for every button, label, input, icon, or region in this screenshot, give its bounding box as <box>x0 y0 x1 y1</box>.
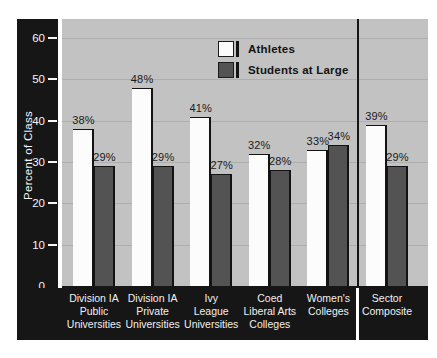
bar-athletes-2 <box>190 117 211 286</box>
bar-students-4 <box>328 145 349 286</box>
y-tick-mark-30 <box>48 161 57 163</box>
bar-students-3 <box>270 170 291 286</box>
value-label-athletes-3: 32% <box>237 139 281 151</box>
value-label-students-2: 27% <box>200 159 244 171</box>
value-label-students-3: 28% <box>258 155 302 167</box>
y-tick-value-40: 40 <box>32 115 45 127</box>
y-tick-value-50: 50 <box>32 73 45 85</box>
legend-item-athletes: Athletes <box>218 40 349 57</box>
students-at-large-swatch-shadow <box>236 62 239 78</box>
value-label-athletes-2: 41% <box>179 102 223 114</box>
y-tick-mark-10 <box>48 244 57 246</box>
bar-athletes-1 <box>132 88 153 286</box>
gridline-60 <box>62 38 428 39</box>
value-label-students-1: 29% <box>141 151 185 163</box>
bar-chart-figure: Percent of Class 0102030405060 38%29%48%… <box>0 0 437 358</box>
bar-students-5 <box>387 166 408 286</box>
legend-label-students-at-large: Students at Large <box>248 64 349 76</box>
bar-students-2 <box>211 174 232 286</box>
y-tick-value-60: 60 <box>32 32 45 44</box>
y-tick-value-30: 30 <box>32 156 45 168</box>
value-label-athletes-1: 48% <box>120 73 164 85</box>
y-tick-20: 20 <box>17 196 58 210</box>
legend-item-students-at-large: Students at Large <box>218 61 349 78</box>
value-label-students-0: 29% <box>83 151 127 163</box>
bar-students-0 <box>94 166 115 286</box>
y-tick-40: 40 <box>17 114 58 128</box>
y-tick-50: 50 <box>17 72 58 86</box>
y-tick-value-10: 10 <box>32 239 45 251</box>
y-tick-30: 30 <box>17 155 58 169</box>
y-tick-10: 10 <box>17 238 58 252</box>
bar-athletes-4 <box>307 150 328 286</box>
value-label-athletes-0: 38% <box>62 114 106 126</box>
y-tick-60: 60 <box>17 31 58 45</box>
students-at-large-swatch <box>218 62 234 78</box>
y-tick-mark-60 <box>48 37 57 39</box>
value-label-athletes-5: 39% <box>355 110 399 122</box>
sector-divider <box>357 19 359 286</box>
y-tick-mark-20 <box>48 202 57 204</box>
value-label-students-5: 29% <box>376 151 420 163</box>
bar-students-1 <box>153 166 174 286</box>
athletes-swatch <box>218 41 234 57</box>
legend-label-athletes: Athletes <box>248 43 295 55</box>
y-tick-value-20: 20 <box>32 197 45 209</box>
athletes-swatch-shadow <box>236 41 239 57</box>
y-tick-mark-50 <box>48 78 57 80</box>
y-tick-mark-40 <box>48 120 57 122</box>
sector-divider-gap <box>356 288 359 340</box>
value-label-students-4: 34% <box>317 130 361 142</box>
bar-athletes-5 <box>366 125 387 286</box>
legend: Athletes Students at Large <box>218 40 349 82</box>
bar-athletes-3 <box>249 154 270 286</box>
